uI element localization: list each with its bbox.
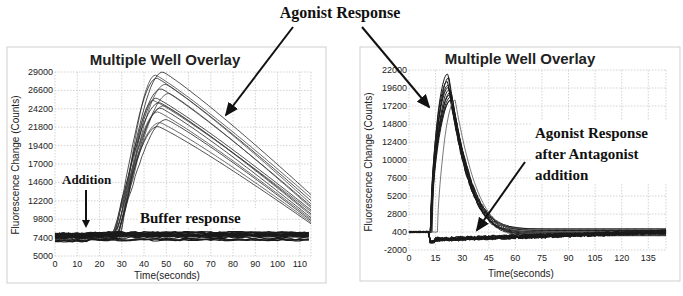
x-tick-label: 10 [72,259,82,269]
y-tick-label: 17200 [382,101,407,111]
x-tick-label: 90 [564,253,574,263]
left-chart-title: Multiple Well Overlay [90,51,241,68]
addition-label: Addition [62,172,112,187]
y-tick-label: 400 [392,227,407,237]
x-tick-label: 45 [484,253,494,263]
y-tick-label: 5000 [33,251,53,261]
x-tick-label: 40 [139,259,149,269]
y-tick-label: 17000 [28,159,53,169]
x-tick-label: 100 [270,259,285,269]
y-tick-label: 19400 [28,141,53,151]
y-tick-label: 10000 [382,155,407,165]
y-tick-label: 12200 [28,196,53,206]
x-tick-label: 0 [52,259,57,269]
y-tick-label: 21800 [28,122,53,132]
y-tick-label: 7600 [387,173,407,183]
y-tick-label: 26600 [28,85,53,95]
x-tick-label: 50 [161,259,171,269]
y-tick-label: 24200 [28,104,53,114]
x-tick-label: 0 [406,253,411,263]
x-tick-label: 20 [95,259,105,269]
top-annotation: Agonist Response [280,4,400,22]
y-tick-label: 5200 [387,191,407,201]
x-tick-label: 60 [510,253,520,263]
antagonist-label-line-2: after Antagonist [535,146,638,162]
figure: Agonist Response Multiple Well Overlay 5… [0,0,683,296]
antagonist-label-line-1: Agonist Response [535,125,648,141]
x-tick-label: 110 [293,259,307,269]
x-tick-label: 60 [184,259,194,269]
y-tick-label: 7400 [33,233,53,243]
left-chart-panel: Multiple Well Overlay 500074009800122001… [7,47,326,283]
x-tick-label: 15 [431,253,441,263]
y-tick-label: 29000 [28,67,53,77]
right-chart-xlabel: Time(seconds) [488,268,554,279]
y-tick-label: 19600 [382,83,407,93]
y-tick-label: 2800 [387,209,407,219]
x-tick-label: 70 [206,259,216,269]
y-tick-label: 12400 [382,137,407,147]
antagonist-label-line-3: addition [535,167,589,183]
x-tick-label: 80 [228,259,238,269]
buffer-response-label: Buffer response [140,210,241,226]
x-tick-label: 75 [537,253,547,263]
x-tick-label: 105 [588,253,603,263]
x-tick-label: 30 [457,253,467,263]
right-chart-title: Multiple Well Overlay [445,50,596,67]
y-tick-label: 9800 [33,214,53,224]
left-chart-ylabel: Fluorescence Change (Counts) [10,96,21,235]
x-tick-label: 90 [250,259,260,269]
right-chart-ylabel: Fluorescence Change (Counts) [363,93,374,232]
y-tick-label: 14800 [382,119,407,129]
x-tick-label: 120 [614,253,629,263]
y-tick-label: 14600 [28,177,53,187]
x-tick-label: 135 [641,253,656,263]
x-tick-label: 30 [117,259,127,269]
y-tick-label: -2000 [384,245,407,255]
left-chart-xlabel: Time(seconds) [134,270,200,281]
